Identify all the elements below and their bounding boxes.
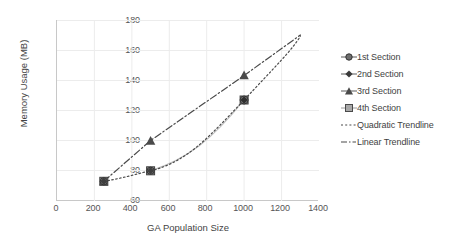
x-axis-title: GA Population Size (108, 222, 268, 233)
data-point-group-1000-high (239, 71, 248, 80)
triangle-marker-icon (341, 85, 357, 97)
dash-dot-line-icon (341, 136, 357, 148)
plot-area (56, 20, 318, 201)
legend-label: 3rd Section (357, 86, 401, 96)
data-point-group-1000-low (240, 96, 248, 104)
horizontal-gridlines (57, 21, 319, 171)
legend-label: 1st Section (357, 52, 400, 62)
legend-item-2nd-section[interactable]: 2nd Section (341, 65, 459, 82)
dotted-line-icon (341, 119, 357, 131)
data-point-group-250 (99, 177, 108, 186)
legend-label: 2nd Section (357, 69, 403, 79)
x-tick-label: 600 (148, 204, 188, 213)
quadratic-trendline (104, 36, 301, 181)
x-tick-label: 400 (110, 204, 150, 213)
legend-label: Linear Trendline (357, 137, 420, 147)
legend-item-linear-trendline[interactable]: Linear Trendline (341, 133, 459, 150)
circle-marker-icon (341, 51, 357, 63)
linear-trendline (104, 35, 301, 181)
square-marker-icon (341, 102, 357, 114)
memory-usage-chart: 180 160 140 120 100 80 60 0 200 400 600 … (0, 0, 462, 244)
x-tick-label: 0 (36, 204, 76, 213)
x-tick-label: 1000 (223, 204, 263, 213)
x-tick-label: 800 (185, 204, 225, 213)
triangle-marker (239, 71, 248, 80)
data-point-group-500-low (147, 167, 155, 175)
legend-item-3rd-section[interactable]: 3rd Section (341, 82, 459, 99)
y-axis-title: Memory Usage (MB) (18, 14, 29, 154)
diamond-marker-icon (341, 68, 357, 80)
legend-item-1st-section[interactable]: 1st Section (341, 48, 459, 65)
x-tick-label: 1200 (260, 204, 300, 213)
legend-label: 4th Section (357, 103, 401, 113)
legend-label: Quadratic Trendline (357, 120, 434, 130)
chart-legend: 1st Section 2nd Section 3rd Section (341, 48, 459, 150)
legend-item-4th-section[interactable]: 4th Section (341, 99, 459, 116)
legend-item-quadratic-trendline[interactable]: Quadratic Trendline (341, 116, 459, 133)
plot-svg (57, 20, 319, 201)
x-tick-label: 1400 (298, 204, 338, 213)
x-tick-label: 200 (73, 204, 113, 213)
